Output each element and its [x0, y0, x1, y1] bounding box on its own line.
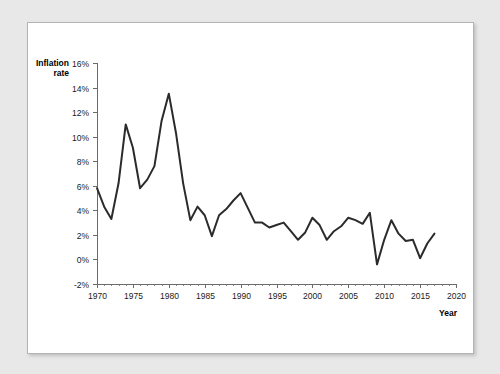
chart-area: -2%0%2%4%6%8%10%12%14%16% 19701975198019…	[28, 23, 473, 353]
y-tick-label: 16%	[72, 59, 89, 69]
y-axis-tick-labels: -2%0%2%4%6%8%10%12%14%16%	[72, 59, 89, 290]
x-tick-label: 1970	[88, 291, 107, 301]
y-axis-title-line2: rate	[53, 68, 69, 78]
inflation-rate-series-line	[97, 94, 434, 265]
page-root: -2%0%2%4%6%8%10%12%14%16% 19701975198019…	[0, 0, 500, 374]
y-tick-label: 0%	[77, 255, 90, 265]
x-tick-label: 1980	[160, 291, 179, 301]
x-tick-label: 2005	[339, 291, 358, 301]
x-axis-title: Year	[439, 308, 458, 318]
chart-card: -2%0%2%4%6%8%10%12%14%16% 19701975198019…	[27, 22, 474, 354]
x-tick-label: 1990	[232, 291, 251, 301]
x-tick-label: 2010	[375, 291, 394, 301]
y-tick-label: 4%	[77, 206, 90, 216]
x-tick-label: 2000	[303, 291, 322, 301]
y-axis-title-line1: Inflation	[36, 58, 69, 68]
y-tick-label: 14%	[72, 84, 89, 94]
x-axis-tick-labels: 1970197519801985199019952000200520102015…	[88, 291, 466, 301]
x-tick-label: 1995	[268, 291, 287, 301]
inflation-line-chart: -2%0%2%4%6%8%10%12%14%16% 19701975198019…	[28, 23, 475, 355]
x-tick-label: 1975	[124, 291, 143, 301]
y-tick-label: 2%	[77, 231, 90, 241]
y-tick-label: 8%	[77, 157, 90, 167]
y-tick-label: 12%	[72, 108, 89, 118]
y-tick-label: 6%	[77, 182, 90, 192]
y-tick-label: -2%	[74, 280, 90, 290]
x-tick-label: 2020	[447, 291, 466, 301]
y-tick-label: 10%	[72, 133, 89, 143]
axis-tick-marks	[93, 64, 457, 289]
x-tick-label: 2015	[411, 291, 430, 301]
x-tick-label: 1985	[196, 291, 215, 301]
